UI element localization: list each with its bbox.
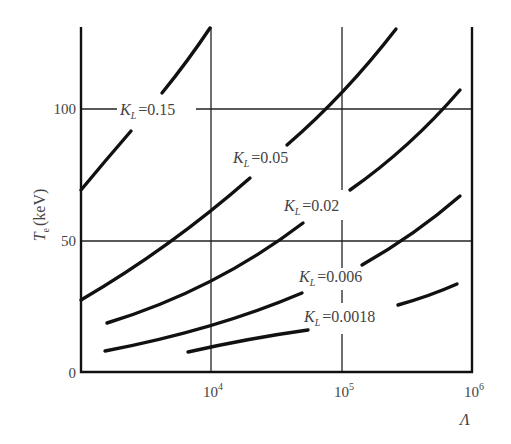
curve-k-0.006-upper	[362, 196, 460, 265]
x-tick-1e4-exp: 4	[218, 381, 223, 392]
chart: 100 50 0 104 105 106 Λ Te(keV) KL=0.15 K…	[0, 0, 511, 444]
label-k-0.02-value: 0.02	[311, 197, 339, 214]
gridlines	[81, 27, 472, 372]
label-k-0.006-sub: L	[309, 277, 316, 288]
label-k-0.006-eq: =	[317, 268, 326, 285]
curve-k-0.0018-lower	[188, 330, 308, 352]
label-k-0.02-eq: =	[302, 197, 311, 214]
curve-k-0.006-lower	[105, 293, 302, 351]
x-axis-title: Λ	[458, 411, 470, 428]
label-k-0.02-sub: L	[294, 206, 301, 217]
curves	[81, 28, 460, 352]
label-k-0.0018-eq: =	[322, 308, 331, 325]
x-tick-1e6-base: 10	[464, 384, 479, 400]
label-k-0.05-eq: =	[251, 149, 260, 166]
curve-k-0.05-lower	[81, 178, 250, 300]
y-axis-title-unit: (keV)	[31, 189, 49, 226]
x-tick-1e6: 106	[464, 381, 484, 400]
label-k-0.006-value: 0.006	[326, 268, 362, 285]
curve-k-0.15-upper	[162, 28, 210, 93]
label-k-0.15: KL=0.15	[119, 101, 175, 121]
x-tick-1e5: 105	[334, 381, 354, 400]
label-k-0.0018-value: 0.0018	[331, 308, 375, 325]
label-k-0.006: KL=0.006	[298, 268, 362, 288]
x-tick-1e5-exp: 5	[349, 381, 354, 392]
label-k-0.02: KL=0.02	[283, 197, 339, 217]
axes-frame	[80, 27, 473, 373]
curve-k-0.0018-upper	[398, 284, 457, 305]
label-k-0.05-value: 0.05	[260, 149, 288, 166]
label-k-0.15-sub: L	[130, 110, 137, 121]
label-k-0.15-value: 0.15	[147, 101, 175, 118]
y-axis-title: Te(keV)	[31, 189, 51, 242]
curve-k-0.15-lower	[81, 131, 131, 190]
x-tick-1e4: 104	[203, 381, 223, 400]
x-tick-1e4-base: 10	[203, 384, 218, 400]
y-tick-50: 50	[61, 233, 76, 249]
label-k-0.05-sub: L	[243, 158, 250, 169]
curve-k-0.02-lower	[107, 223, 303, 323]
y-tick-0: 0	[69, 365, 77, 381]
curve-k-0.02-upper	[350, 90, 460, 190]
label-k-0.05: KL=0.05	[232, 149, 288, 169]
label-k-0.0018-sub: L	[314, 317, 321, 328]
x-tick-1e6-exp: 6	[479, 381, 484, 392]
label-k-0.0018: KL=0.0018	[303, 308, 375, 328]
y-axis-title-sub: e	[40, 227, 51, 232]
y-tick-100: 100	[54, 101, 77, 117]
x-tick-1e5-base: 10	[334, 384, 349, 400]
label-k-0.15-eq: =	[138, 101, 147, 118]
